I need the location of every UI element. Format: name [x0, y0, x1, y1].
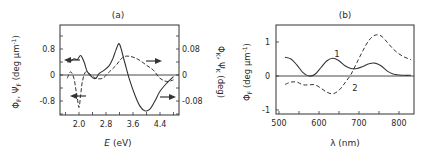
panel-b: (b) 500600700800 -101 12 λ (nm) ΦF (deg … — [241, 10, 414, 148]
panel-b-title: (b) — [339, 10, 352, 20]
svg-text:0.8: 0.8 — [42, 45, 55, 54]
svg-text:2: 2 — [352, 83, 357, 93]
panel-a-y-tick-labels-left: -0.800.8 — [39, 45, 55, 106]
svg-text:1: 1 — [334, 49, 339, 59]
svg-text:-1: -1 — [262, 106, 270, 115]
arrow-right-icon — [160, 94, 176, 100]
panel-b-x-label: λ (nm) — [330, 138, 360, 148]
svg-text:0: 0 — [265, 72, 270, 81]
svg-text:700: 700 — [351, 119, 366, 128]
svg-text:500: 500 — [271, 119, 286, 128]
panel-a: (a) 2.02.83.64.4 -0.800.8 -0.0800.08 E (… — [10, 10, 203, 148]
arrow-right-icon — [146, 58, 162, 64]
svg-text:3.6: 3.6 — [127, 120, 140, 129]
arrow-left-icon — [64, 57, 80, 63]
panel-b-curve-1 — [285, 57, 411, 76]
svg-text:-0.08: -0.08 — [182, 97, 203, 106]
panel-b-curve-2 — [285, 35, 411, 94]
panel-a-y-label-left: ΦF, ΨF (deg μm-1) — [10, 35, 22, 108]
svg-text:2.0: 2.0 — [73, 120, 86, 129]
panel-b-y-label: ΦF (deg μm-1) — [241, 43, 253, 101]
panel-a-ticks — [60, 36, 179, 115]
svg-text:600: 600 — [311, 119, 326, 128]
panel-b-x-tick-labels: 500600700800 — [271, 119, 406, 128]
svg-text:0: 0 — [182, 71, 187, 80]
panel-a-y-tick-labels-right: -0.0800.08 — [182, 45, 203, 106]
svg-text:0.08: 0.08 — [182, 45, 200, 54]
svg-text:0: 0 — [50, 71, 55, 80]
svg-text:-0.8: -0.8 — [39, 97, 55, 106]
svg-text:2.8: 2.8 — [100, 120, 113, 129]
panel-a-x-tick-labels: 2.02.83.64.4 — [73, 120, 167, 129]
arrow-left-icon — [70, 93, 86, 99]
svg-text:4.4: 4.4 — [154, 120, 167, 129]
panel-b-y-tick-labels: -101 — [262, 38, 270, 115]
panel-b-frame — [276, 25, 414, 114]
panel-a-y-label-right: ΦK, ΨK (deg) — [215, 46, 226, 98]
panel-a-title: (a) — [112, 10, 125, 20]
svg-text:1: 1 — [265, 38, 270, 47]
panel-a-dashed-curve — [67, 56, 173, 107]
panel-b-curve-labels: 12 — [334, 49, 357, 93]
svg-text:800: 800 — [391, 119, 406, 128]
panel-a-x-label: E (eV) — [104, 138, 131, 148]
